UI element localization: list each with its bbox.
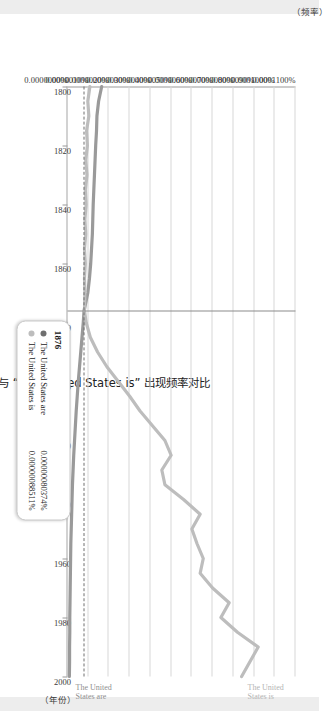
series-line [69, 86, 101, 676]
rotated-chart-wrapper: 书籍中 “The United States are” 与 “The Unite… [0, 0, 319, 711]
tooltip-series-name: The United States are [38, 341, 48, 414]
hover-horizontal-line [83, 86, 84, 676]
series-end-label: The United States are [75, 682, 121, 700]
series-color-dot-icon [40, 330, 46, 336]
tooltip-series-value: 0.00000080374% [38, 440, 48, 510]
tooltip-row: The United States is0.00000088511% [26, 330, 36, 510]
series-end-label: The United States is [247, 682, 293, 700]
series-lines [67, 86, 295, 676]
tooltip-series-name: The United States is [26, 341, 36, 410]
tooltip-rows: The United States are0.00000080374%The U… [26, 330, 48, 510]
x-axis-unit-label: （年份） [39, 692, 75, 704]
chart-canvas: 书籍中 “The United States are” 与 “The Unite… [0, 0, 319, 711]
tooltip-year: 1876 [52, 330, 62, 510]
y-tick-label: 0.0001100% [252, 76, 295, 85]
y-axis-title: （频率） [291, 4, 327, 16]
x-tick-label: 2000 [54, 676, 71, 686]
tooltip-series-value: 0.00000088511% [26, 440, 36, 510]
plot-area: 0.0000000%0.0000010%0.0000020%0.0000030%… [67, 86, 295, 676]
series-line [84, 86, 258, 676]
series-color-dot-icon [28, 330, 34, 336]
hover-vertical-line [67, 310, 295, 311]
tooltip-row: The United States are0.00000080374% [38, 330, 48, 510]
hover-tooltip[interactable]: 1876 The United States are0.00000080374%… [16, 320, 70, 520]
